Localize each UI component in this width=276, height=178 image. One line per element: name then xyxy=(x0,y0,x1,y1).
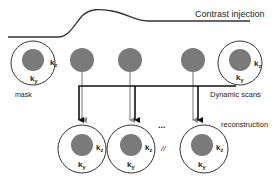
reconstruction-label: reconstruction xyxy=(221,120,268,129)
dynamic-scans-label: Dynamic scans xyxy=(210,90,261,99)
mask-label: mask xyxy=(15,91,32,98)
contrast-injection-diagram: Contrast injection kz ky mask kz ky Dyna… xyxy=(0,0,276,178)
dynamic-scan-circle xyxy=(118,48,142,72)
reconstruction-circle: kz ky xyxy=(180,125,228,173)
dynamic-scan-circle xyxy=(70,48,94,72)
separator-label: // xyxy=(160,144,166,153)
full-kspace-circle: kz ky xyxy=(218,41,262,85)
svg-text:kz: kz xyxy=(50,58,57,68)
mask-kspace-circle: kz ky xyxy=(11,41,57,85)
reconstruction-circle: kz ky xyxy=(107,125,155,173)
reconstruction-circle: kz ky xyxy=(58,125,106,173)
ellipsis-label: ... xyxy=(158,120,166,130)
contrast-injection-label: Contrast injection xyxy=(195,9,265,19)
dynamic-scan-circle xyxy=(181,48,205,72)
